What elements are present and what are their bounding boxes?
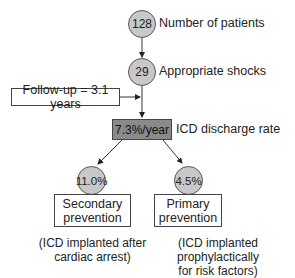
secondary-note-line2: cardiac arrest)	[30, 250, 155, 264]
secondary-prevention-box: Secondary prevention	[54, 194, 131, 227]
patients-node: 128	[128, 10, 156, 38]
shocks-label: Appropriate shocks	[159, 64, 266, 78]
discharge-rate-value: 7.3%/year	[115, 123, 169, 137]
patients-label: Number of patients	[159, 16, 265, 30]
followup-box: Follow-up = 3.1 years	[11, 88, 120, 106]
primary-note-line2: for risk factors)	[142, 264, 294, 278]
shocks-count: 29	[135, 65, 148, 79]
primary-note-line1: (ICD implanted prophylactically	[142, 236, 294, 264]
primary-title-line1: Primary	[166, 197, 209, 211]
followup-label: Follow-up = 3.1 years	[12, 83, 119, 111]
discharge-rate-box: 7.3%/year	[112, 119, 172, 140]
primary-rate-node: 4.5%	[174, 166, 203, 195]
secondary-title-line2: prevention	[63, 211, 121, 225]
secondary-rate-value: 11.0%	[76, 175, 108, 187]
primary-prevention-box: Primary prevention	[154, 194, 222, 227]
secondary-rate-node: 11.0%	[77, 166, 106, 195]
primary-rate-value: 4.5%	[175, 175, 201, 187]
patients-count: 128	[132, 17, 152, 31]
discharge-rate-label: ICD discharge rate	[176, 122, 280, 136]
secondary-title-line1: Secondary	[63, 197, 123, 211]
shocks-node: 29	[128, 58, 156, 86]
secondary-note-line1: (ICD implanted after	[30, 236, 155, 250]
primary-title-line2: prevention	[159, 211, 217, 225]
primary-note: (ICD implanted prophylactically for risk…	[142, 236, 294, 278]
secondary-note: (ICD implanted after cardiac arrest)	[30, 236, 155, 264]
